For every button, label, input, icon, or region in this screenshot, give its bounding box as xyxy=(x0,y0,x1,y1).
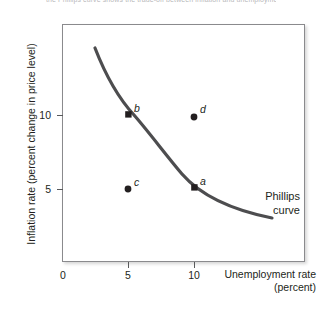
curve-annotation-line1: Phillips xyxy=(226,190,300,204)
data-point-label-b: b xyxy=(134,103,140,114)
data-point-label-d: d xyxy=(200,104,206,115)
xtick-mark-5 xyxy=(128,262,129,268)
data-point-label-a: a xyxy=(200,176,206,187)
xtick-label-10: 10 xyxy=(184,270,204,281)
xtick-label-0: 0 xyxy=(53,270,73,281)
ytick-mark-5 xyxy=(57,189,63,190)
phillips-curve-figure: the Phillips curve shows the trade-off b… xyxy=(0,0,322,312)
ytick-mark-10 xyxy=(57,115,63,116)
data-point-c-marker xyxy=(125,186,132,193)
xtick-label-5: 5 xyxy=(118,270,138,281)
xtick-mark-10 xyxy=(194,262,195,268)
curve-annotation-line2: curve xyxy=(226,204,300,218)
data-point-label-c: c xyxy=(134,177,139,188)
plot-canvas xyxy=(62,24,305,262)
data-point-b-marker xyxy=(125,111,131,117)
figure-caption-clipped: the Phillips curve shows the trade-off b… xyxy=(46,0,276,4)
x-axis-title: Unemployment rate (percent) xyxy=(212,268,316,293)
phillips-curve-annotation: Phillips curve xyxy=(226,190,300,217)
y-axis-title: Inflation rate (percent change in price … xyxy=(25,39,37,249)
data-point-a-marker xyxy=(191,184,197,190)
data-point-d-marker xyxy=(191,114,198,121)
